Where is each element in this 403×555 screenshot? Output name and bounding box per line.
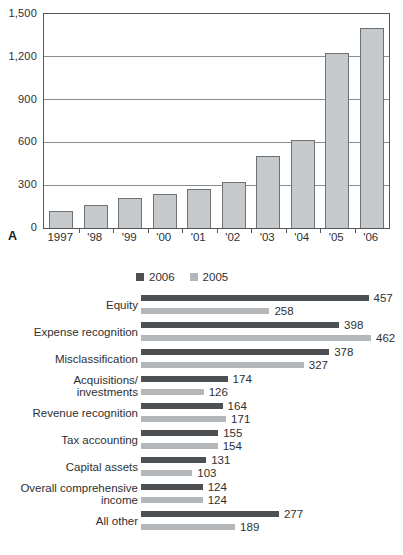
- bar-2006: [141, 376, 228, 382]
- value-label-2006: 378: [334, 346, 353, 359]
- value-label-2006: 398: [344, 319, 363, 332]
- value-label-2005: 103: [197, 467, 216, 480]
- category-bars: 164171: [141, 399, 403, 426]
- bar-2005: [141, 524, 235, 530]
- bar-2005: [141, 335, 371, 341]
- category-label: Overall comprehensive income: [0, 482, 138, 506]
- bar-line-2006: 124: [141, 481, 403, 494]
- bar-line-2006: 277: [141, 508, 403, 521]
- panel-a-label: A: [8, 229, 17, 243]
- bar-2006: [141, 403, 223, 409]
- value-label-2005: 124: [208, 494, 227, 507]
- x-tick-label-1997: 1997: [47, 231, 73, 243]
- bar-2005: [141, 443, 218, 449]
- category-label: Misclassification: [0, 353, 138, 365]
- category-row: Revenue recognition164171: [0, 399, 403, 426]
- x-tick-label-00: '00: [156, 231, 171, 243]
- bar-99: [118, 198, 142, 228]
- x-tick-label-01: '01: [191, 231, 206, 243]
- category-bars: 457258: [141, 291, 403, 318]
- value-label-2006: 131: [211, 454, 230, 467]
- category-label: Expense recognition: [0, 326, 138, 338]
- y-tick-label-600: 600: [18, 135, 37, 147]
- x-tick: [355, 228, 356, 233]
- bar-2005: [141, 497, 203, 503]
- bar-line-2005: 462: [141, 332, 403, 345]
- bar-2006: [141, 295, 369, 301]
- panel-a-y-axis: 03006009001,2001,500: [0, 13, 39, 227]
- value-label-2005: 462: [376, 332, 395, 345]
- x-tick: [251, 228, 252, 233]
- bar-2006: [141, 484, 203, 490]
- category-row: Misclassification378327: [0, 345, 403, 372]
- value-label-2005: 171: [231, 413, 250, 426]
- bar-2006: [141, 349, 329, 355]
- bar-line-2005: 189: [141, 521, 403, 534]
- bar-line-2005: 124: [141, 494, 403, 507]
- category-label: Capital assets: [0, 461, 138, 473]
- category-bars: 155154: [141, 426, 403, 453]
- x-tick-label-02: '02: [225, 231, 240, 243]
- x-tick: [79, 228, 80, 233]
- bar-line-2005: 154: [141, 440, 403, 453]
- x-tick-label-06: '06: [363, 231, 378, 243]
- category-label: Acquisitions/ investments: [0, 374, 138, 398]
- panel-b-chart: 20062005 Equity457258Expense recognition…: [0, 252, 403, 555]
- bar-line-2006: 155: [141, 427, 403, 440]
- value-label-2005: 126: [209, 386, 228, 399]
- panel-a-plot-area: [43, 13, 390, 229]
- category-row: Overall comprehensive income124124: [0, 480, 403, 507]
- bar-2005: [141, 470, 192, 476]
- legend-swatch-2005-icon: [190, 273, 198, 281]
- figure-root: { "figure": { "panel_a_label": "A", "pan…: [0, 0, 403, 555]
- bar-2006: [141, 430, 218, 436]
- bar-line-2006: 457: [141, 292, 403, 305]
- bar-01: [187, 189, 211, 228]
- value-label-2005: 258: [274, 305, 293, 318]
- bar-2005: [141, 416, 226, 422]
- category-label: Equity: [0, 299, 138, 311]
- x-tick: [148, 228, 149, 233]
- y-tick-label-0: 0: [31, 221, 37, 233]
- x-tick: [320, 228, 321, 233]
- category-label: Tax accounting: [0, 434, 138, 446]
- x-tick-label-98: '98: [87, 231, 102, 243]
- value-label-2006: 457: [374, 292, 393, 305]
- bar-05: [325, 53, 349, 228]
- category-label: Revenue recognition: [0, 407, 138, 419]
- bar-line-2005: 126: [141, 386, 403, 399]
- category-bars: 131103: [141, 453, 403, 480]
- x-tick-label-99: '99: [122, 231, 137, 243]
- x-tick: [286, 228, 287, 233]
- y-tick-label-300: 300: [18, 178, 37, 190]
- bar-2005: [141, 389, 204, 395]
- legend-label-2005: 2005: [203, 271, 229, 283]
- category-row: Acquisitions/ investments174126: [0, 372, 403, 399]
- bar-2005: [141, 308, 269, 314]
- x-tick: [113, 228, 114, 233]
- bar-2006: [141, 457, 206, 463]
- bar-line-2006: 131: [141, 454, 403, 467]
- bar-line-2006: 164: [141, 400, 403, 413]
- bar-line-2006: 398: [141, 319, 403, 332]
- value-label-2005: 327: [309, 359, 328, 372]
- value-label-2006: 155: [223, 427, 242, 440]
- x-tick-label-05: '05: [329, 231, 344, 243]
- category-bars: 277189: [141, 507, 403, 534]
- bar-line-2006: 378: [141, 346, 403, 359]
- bar-2006: [141, 511, 279, 517]
- bar-2005: [141, 362, 304, 368]
- category-row: Expense recognition398462: [0, 318, 403, 345]
- bar-line-2005: 171: [141, 413, 403, 426]
- legend-swatch-2006-icon: [136, 273, 144, 281]
- category-row: Tax accounting155154: [0, 426, 403, 453]
- legend-item-2006: 2006: [136, 271, 175, 283]
- value-label-2006: 174: [233, 373, 252, 386]
- bar-line-2005: 258: [141, 305, 403, 318]
- bar-1997: [49, 211, 73, 228]
- bar-00: [153, 194, 177, 228]
- bar-2006: [141, 322, 339, 328]
- bar-03: [256, 156, 280, 228]
- x-tick-label-03: '03: [260, 231, 275, 243]
- value-label-2005: 154: [223, 440, 242, 453]
